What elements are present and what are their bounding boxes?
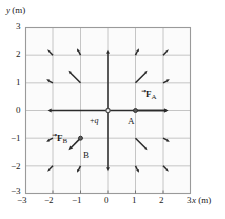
point-b-label: B bbox=[83, 151, 89, 160]
point-marker-B bbox=[79, 136, 83, 140]
y-tick-2: 2 bbox=[16, 50, 21, 59]
y-tick--3: −3 bbox=[11, 187, 21, 196]
y-axis-label-unit: (m) bbox=[10, 5, 25, 15]
point-a-label: A bbox=[128, 117, 135, 126]
x-tick-3: 3 bbox=[187, 196, 192, 205]
y-tick-3: 3 bbox=[16, 22, 21, 31]
y-axis-label: y (m) bbox=[6, 6, 25, 15]
x-axis-label: x (m) bbox=[192, 196, 211, 205]
force-b-label: ⃗FB bbox=[57, 134, 67, 145]
x-tick--2: −2 bbox=[44, 196, 54, 205]
force-b-subscript: B bbox=[63, 137, 68, 145]
x-tick--3: −3 bbox=[17, 196, 27, 205]
x-tick-1: 1 bbox=[132, 196, 137, 205]
charge-label: +q bbox=[90, 117, 99, 125]
y-tick--2: −2 bbox=[11, 162, 21, 171]
force-a-subscript: A bbox=[152, 93, 157, 101]
charge-symbol: q bbox=[95, 116, 99, 125]
x-tick-2: 2 bbox=[159, 196, 164, 205]
y-tick-1: 1 bbox=[16, 78, 21, 87]
y-tick--1: −1 bbox=[11, 134, 21, 143]
x-axis-label-unit: (m) bbox=[196, 195, 211, 205]
field-plot-svg bbox=[0, 0, 225, 219]
point-marker-A bbox=[134, 109, 138, 113]
force-a-label: ⃗FA bbox=[146, 90, 157, 101]
electric-field-figure bbox=[0, 0, 225, 219]
charge-marker bbox=[106, 108, 110, 112]
x-tick-0: 0 bbox=[104, 196, 109, 205]
y-tick-0: 0 bbox=[16, 106, 21, 115]
x-tick--1: −1 bbox=[72, 196, 82, 205]
